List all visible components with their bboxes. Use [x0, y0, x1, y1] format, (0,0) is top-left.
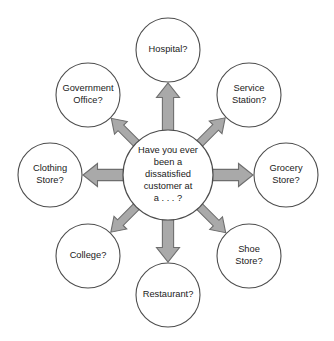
- node-clothing-store[interactable]: ClothingStore?: [18, 143, 82, 207]
- node-grocery-store[interactable]: GroceryStore?: [254, 143, 318, 207]
- hub-layer: Have you everbeen adissatisfiedcustomer …: [123, 130, 213, 220]
- arrow-to-service-station: [196, 118, 225, 147]
- node-restaurant-label: Restaurant?: [143, 289, 194, 299]
- arrow-to-clothing-store: [83, 164, 125, 187]
- node-service-station-label: ServiceStation?: [232, 84, 266, 106]
- arrow-to-shoe-store: [196, 203, 226, 233]
- node-shoe-store[interactable]: ShoeStore?: [217, 224, 281, 288]
- node-restaurant[interactable]: Restaurant?: [136, 263, 200, 327]
- center-question-node[interactable]: Have you everbeen adissatisfiedcustomer …: [123, 130, 213, 220]
- node-shoe-store-label: ShoeStore?: [235, 245, 262, 267]
- node-government-office[interactable]: GovernmentOffice?: [56, 63, 120, 127]
- node-hospital[interactable]: Hospital?: [136, 18, 200, 82]
- arrow-to-grocery-store: [212, 164, 254, 187]
- node-hospital-label: Hospital?: [149, 44, 188, 54]
- node-grocery-store-label: GroceryStore?: [269, 164, 302, 186]
- node-college-label: College?: [70, 250, 107, 260]
- node-clothing-store-label: ClothingStore?: [33, 164, 67, 186]
- node-college[interactable]: College?: [56, 224, 120, 288]
- arrow-to-hospital: [157, 83, 180, 132]
- arrow-to-college: [111, 203, 140, 232]
- node-service-station[interactable]: ServiceStation?: [217, 63, 281, 127]
- arrow-to-restaurant: [157, 219, 180, 263]
- diagram-canvas: Hospital?ServiceStation?GroceryStore?Sho…: [0, 0, 334, 341]
- spider-web-diagram: Hospital?ServiceStation?GroceryStore?Sho…: [0, 0, 334, 341]
